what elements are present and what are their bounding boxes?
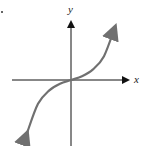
function-graph: y x bbox=[0, 0, 145, 146]
y-axis-label: y bbox=[67, 3, 73, 15]
stray-dot bbox=[1, 11, 3, 13]
x-axis-label: x bbox=[133, 73, 139, 85]
